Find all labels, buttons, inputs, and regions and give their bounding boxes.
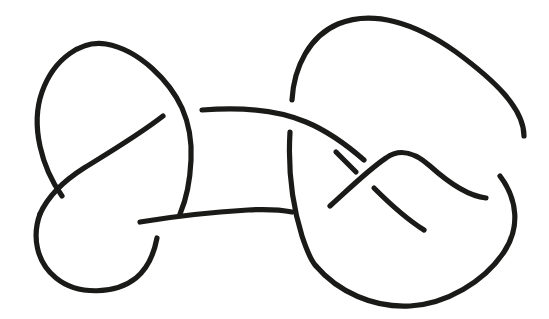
knot-diagram-canvas [0,0,549,319]
knot-diagram-figure: Knot diagram [0,0,549,319]
